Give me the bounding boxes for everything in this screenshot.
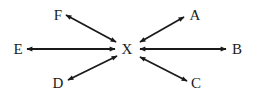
star-diagram: X A B C D E F [0,0,253,93]
node-b-label: B [232,41,242,57]
node-d-label: D [53,75,64,91]
node-e-label: E [13,41,22,57]
edge-x-c [140,57,187,81]
node-c-label: C [191,75,201,91]
node-x-label: X [122,41,133,57]
node-f-label: F [54,7,62,23]
edge-x-d [68,56,117,80]
node-a-label: A [190,7,201,23]
edge-x-a [140,17,184,42]
edge-x-f [66,15,116,42]
